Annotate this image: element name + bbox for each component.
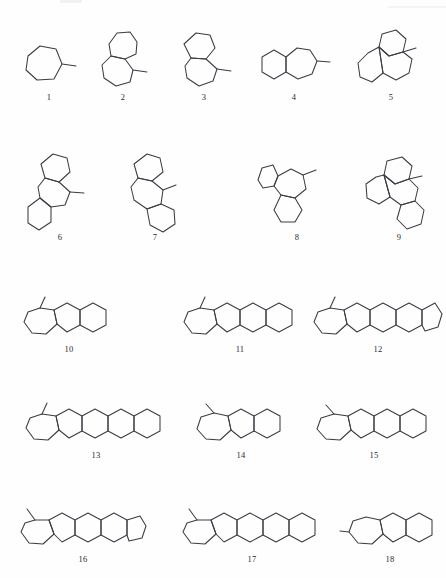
methyl-bond-1 [403, 48, 416, 52]
ring-2 [348, 409, 374, 438]
methyl-bond-1 [217, 69, 231, 71]
ring-5 [127, 516, 146, 541]
ring-1 [184, 308, 217, 334]
structure-16 [16, 506, 150, 554]
structure-7-label: 7 [120, 232, 190, 242]
structure-10-skeleton [20, 296, 118, 344]
ring-2 [258, 165, 278, 188]
ring-5 [289, 513, 315, 542]
ring-1 [274, 169, 306, 198]
methyl-bond-1 [27, 509, 35, 520]
structure-10 [20, 296, 118, 344]
methyl-bond-1 [42, 403, 47, 414]
scan-artifact-right [388, 6, 446, 8]
ring-1 [26, 46, 62, 80]
ring-2 [379, 47, 412, 80]
ring-1 [197, 413, 231, 440]
ring-4 [397, 201, 424, 229]
structure-15 [312, 402, 436, 450]
structure-14-label: 14 [192, 450, 290, 460]
ring-1 [24, 308, 57, 334]
methyl-bond-1 [326, 405, 334, 414]
methyl-bond-1 [133, 70, 147, 72]
ring-2 [211, 513, 237, 542]
ring-3 [254, 409, 280, 438]
methyl-bond-1 [340, 531, 349, 532]
ring-5 [422, 303, 442, 331]
ring-2 [131, 178, 163, 209]
structure-3-label: 3 [172, 92, 236, 102]
ring-2 [384, 175, 418, 205]
ring-4 [266, 303, 292, 332]
structure-7 [120, 150, 190, 234]
ring-3 [274, 195, 302, 222]
structure-11 [180, 296, 300, 344]
ring-1 [109, 32, 137, 59]
structure-13 [22, 402, 170, 450]
structure-2-label: 2 [92, 92, 154, 102]
structure-8-skeleton [258, 160, 336, 236]
ring-3 [374, 409, 400, 438]
structure-12-skeleton [312, 296, 444, 344]
ring-1 [183, 520, 216, 544]
ring-2 [38, 178, 70, 207]
ring-2 [214, 303, 240, 332]
ring-1 [317, 414, 351, 440]
methyl-bond-1 [303, 170, 316, 175]
structure-6-label: 6 [26, 232, 94, 242]
structure-18-skeleton [340, 506, 440, 554]
ring-4 [101, 513, 127, 542]
structure-5-skeleton [352, 26, 430, 92]
ring-3 [28, 198, 51, 230]
ring-1 [21, 520, 54, 544]
structure-17-label: 17 [178, 554, 326, 564]
ring-2 [49, 513, 75, 542]
structure-8 [258, 160, 336, 236]
ring-2 [185, 58, 217, 86]
ring-3 [370, 303, 396, 332]
structure-18-label: 18 [340, 554, 440, 564]
ring-3 [147, 204, 175, 232]
structure-2-skeleton [92, 28, 154, 90]
ring-1 [184, 33, 215, 59]
structure-1 [18, 40, 80, 90]
ring-3 [82, 409, 108, 438]
methyl-bond-1 [189, 509, 197, 520]
methyl-bond-1 [409, 176, 422, 179]
ring-1 [349, 517, 383, 544]
structure-13-label: 13 [22, 450, 170, 460]
methyl-bond-1 [163, 185, 176, 190]
scan-artifact-top [60, 0, 82, 3]
methyl-bond-1 [206, 404, 214, 413]
ring-3 [237, 513, 263, 542]
structure-17-skeleton [178, 506, 326, 554]
ring-2 [228, 409, 254, 438]
structure-4-label: 4 [256, 92, 332, 102]
structure-11-label: 11 [180, 344, 300, 354]
structure-1-label: 1 [18, 92, 80, 102]
structure-5 [352, 26, 430, 92]
structure-11-skeleton [180, 296, 300, 344]
structure-17 [178, 506, 326, 554]
methyl-bond-1 [62, 64, 76, 66]
structure-4 [256, 42, 332, 90]
ring-3 [358, 47, 383, 82]
methyl-bond-1 [200, 297, 205, 308]
structure-1-skeleton [18, 40, 80, 90]
ring-2 [102, 56, 133, 86]
structure-15-label: 15 [312, 450, 436, 460]
ring-3 [240, 303, 266, 332]
ring-2 [286, 48, 317, 79]
structure-14-skeleton [192, 402, 290, 450]
ring-3 [75, 513, 101, 542]
methyl-bond-1 [40, 297, 45, 308]
ring-2 [54, 303, 80, 332]
methyl-bond-1 [317, 61, 330, 62]
ring-2 [344, 303, 370, 332]
structure-12-label: 12 [312, 344, 444, 354]
structure-9-label: 9 [358, 232, 440, 242]
structure-16-label: 16 [16, 554, 150, 564]
ring-1 [314, 308, 347, 334]
structure-6 [26, 150, 94, 234]
ring-3 [80, 303, 106, 332]
